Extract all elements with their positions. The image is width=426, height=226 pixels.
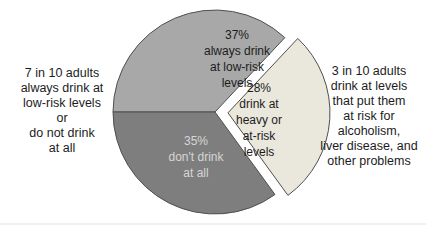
pie-chart-figure: 37% always drink at low-risk levels 28% … — [0, 0, 426, 226]
pie-slice-label-35: 35% don't drink at all — [146, 133, 246, 181]
left-annotation: 7 in 10 adults always drink at low-risk … — [0, 66, 124, 156]
right-annotation: 3 in 10 adults drink at levels that put … — [312, 64, 426, 169]
page-edge-line — [0, 223, 426, 225]
